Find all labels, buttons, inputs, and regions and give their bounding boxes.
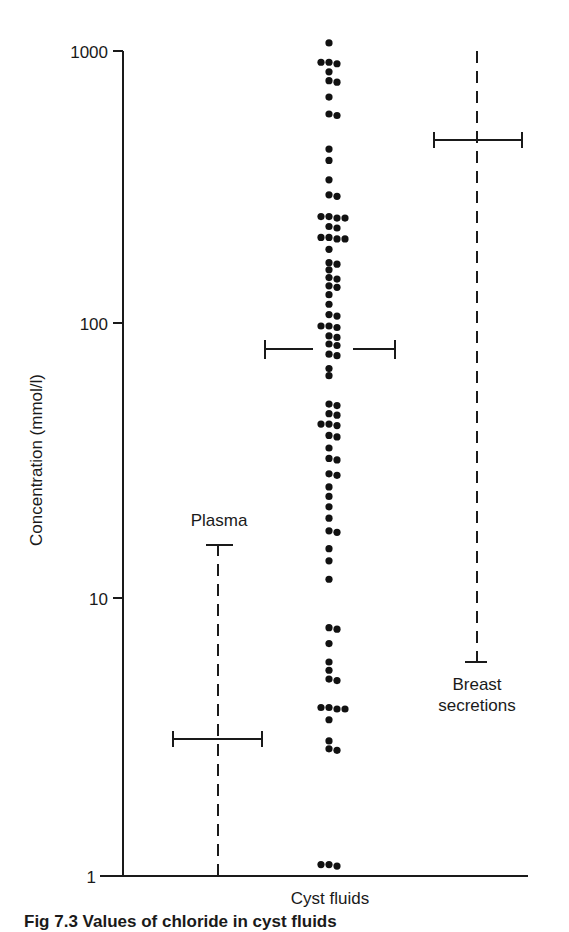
data-point [341, 214, 348, 221]
plasma-label: Plasma [191, 511, 248, 530]
tick-label-1: 1 [87, 868, 96, 887]
data-point [325, 400, 332, 407]
data-point [325, 455, 332, 462]
data-point [325, 332, 332, 339]
data-point [325, 351, 332, 358]
data-point [333, 235, 340, 242]
data-point [325, 444, 332, 451]
data-point [333, 334, 340, 341]
data-point [341, 705, 348, 712]
data-point [325, 291, 332, 298]
data-point [333, 402, 340, 409]
data-point [333, 863, 340, 870]
data-point [325, 110, 332, 117]
data-point [333, 261, 340, 268]
data-point [325, 176, 332, 183]
data-point [325, 493, 332, 500]
data-point [333, 112, 340, 119]
data-point [325, 213, 332, 220]
data-point [325, 59, 332, 66]
data-point [341, 235, 348, 242]
data-point [325, 432, 332, 439]
y-axis-title: Concentration (mmol/l) [27, 374, 46, 546]
data-point [325, 716, 332, 723]
data-point [325, 365, 332, 372]
cyst-fluids-label: Cyst fluids [291, 889, 369, 908]
data-point [325, 266, 332, 273]
data-point [317, 420, 324, 427]
data-point [325, 576, 332, 583]
data-point [333, 193, 340, 200]
data-point [333, 342, 340, 349]
data-point [325, 527, 332, 534]
data-point [317, 322, 324, 329]
tick-label-1000: 1000 [70, 43, 108, 62]
data-point [325, 223, 332, 230]
data-point [325, 68, 332, 75]
data-point [333, 224, 340, 231]
data-point [325, 234, 332, 241]
data-point [325, 259, 332, 266]
data-point [325, 483, 332, 490]
data-point [325, 545, 332, 552]
data-point [317, 704, 324, 711]
data-point [325, 470, 332, 477]
data-point [325, 77, 332, 84]
data-point [325, 420, 332, 427]
data-point [333, 79, 340, 86]
data-point [333, 60, 340, 67]
breast-secretions-series: Breast secretions [434, 51, 522, 715]
data-point [325, 410, 332, 417]
breast-label-line2: secretions [438, 696, 515, 715]
data-point [325, 515, 332, 522]
data-point [333, 472, 340, 479]
data-point [325, 557, 332, 564]
data-point [333, 705, 340, 712]
figure-caption: Fig 7.3 Values of chloride in cyst fluid… [24, 912, 337, 932]
data-point [333, 422, 340, 429]
data-point [325, 274, 332, 281]
data-point [317, 59, 324, 66]
breast-label-line1: Breast [452, 675, 501, 694]
data-point [325, 704, 332, 711]
data-point [325, 157, 332, 164]
data-point [333, 313, 340, 320]
data-point [325, 737, 332, 744]
data-point [325, 322, 332, 329]
cyst-fluid-points [317, 39, 348, 869]
data-point [333, 412, 340, 419]
data-point [333, 214, 340, 221]
data-point [325, 745, 332, 752]
data-point [325, 667, 332, 674]
data-point [325, 282, 332, 289]
data-point [325, 658, 332, 665]
data-point [325, 340, 332, 347]
data-point [325, 301, 332, 308]
data-point [333, 284, 340, 291]
data-point [333, 324, 340, 331]
y-ticks [100, 51, 123, 876]
data-point [325, 675, 332, 682]
data-point [317, 213, 324, 220]
data-point [333, 275, 340, 282]
data-point [333, 433, 340, 440]
data-point [333, 529, 340, 536]
data-point [325, 503, 332, 510]
data-point [325, 640, 332, 647]
data-point [333, 677, 340, 684]
data-point [333, 456, 340, 463]
data-point [317, 234, 324, 241]
data-point [333, 626, 340, 633]
plasma-series: Plasma [173, 511, 262, 876]
data-point [325, 372, 332, 379]
data-point [325, 191, 332, 198]
data-point [325, 39, 332, 46]
data-point [333, 747, 340, 754]
data-point [325, 145, 332, 152]
data-point [325, 246, 332, 253]
data-point [325, 624, 332, 631]
data-point [317, 861, 324, 868]
tick-label-100: 100 [80, 315, 108, 334]
tick-label-10: 10 [89, 590, 108, 609]
